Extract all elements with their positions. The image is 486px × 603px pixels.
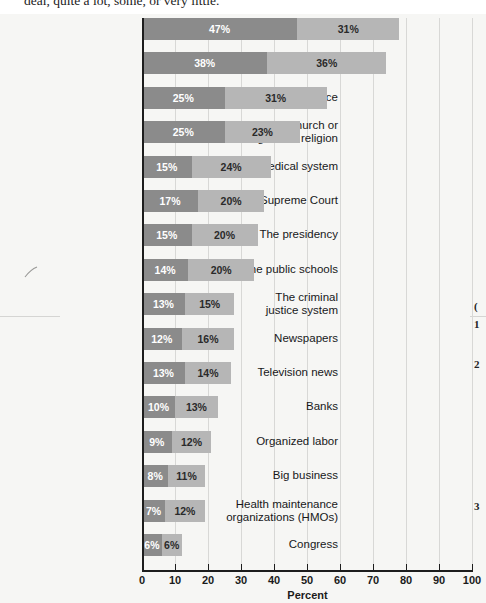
bar-segment-value: 13%	[175, 402, 218, 413]
x-axis-tick	[340, 564, 341, 571]
caption-fragment-clip: deal, quite a lot, some, or very little.	[0, 0, 486, 14]
bar-segment-quite-a-lot: 31%	[297, 18, 399, 40]
x-axis-tick	[274, 564, 275, 571]
bar-segment-quite-a-lot: 23%	[225, 121, 301, 143]
chart-bar-row: Newspapers12%16%	[0, 328, 486, 350]
bar-segment-quite-a-lot: 31%	[225, 87, 327, 109]
bar-segment-great-deal: 10%	[142, 396, 175, 418]
bar-segment-great-deal: 13%	[142, 362, 185, 384]
bar-segment-great-deal: 8%	[142, 465, 168, 487]
bar-segment-value: 6%	[162, 540, 182, 551]
y-axis-line	[142, 18, 144, 570]
x-axis-tick-label: 10	[160, 574, 190, 586]
x-axis-tick-label: 90	[424, 574, 454, 586]
bar-segment-great-deal: 38%	[142, 52, 267, 74]
bar-segment-value: 38%	[142, 58, 267, 69]
bar-segment-value: 13%	[142, 299, 185, 310]
bar-segment-value: 20%	[192, 230, 258, 241]
bar-segment-great-deal: 15%	[142, 224, 192, 246]
category-label-line: Health maintenance	[198, 498, 338, 511]
bar-segment-great-deal: 15%	[142, 156, 192, 178]
bar-segment-value: 11%	[168, 471, 204, 482]
bar-segment-value: 25%	[142, 92, 225, 103]
category-label: Congress	[198, 538, 338, 551]
bar-segment-quite-a-lot: 12%	[165, 500, 205, 522]
margin-rule-left	[0, 316, 60, 317]
chart-bar-row: The criminaljustice system13%15%	[0, 293, 486, 315]
category-label: Big business	[198, 469, 338, 482]
chart-bar-row: Congress6%6%	[0, 534, 486, 556]
bar-segment-great-deal: 17%	[142, 190, 198, 212]
bar-segment-value: 16%	[182, 333, 235, 344]
category-label: Organized labor	[198, 435, 338, 448]
bar-segment-value: 20%	[188, 264, 254, 275]
category-label-line: Organized labor	[198, 435, 338, 448]
bar-segment-value: 15%	[142, 161, 192, 172]
category-label-line: Banks	[198, 400, 338, 413]
chart-bar-row: Big business8%11%	[0, 465, 486, 487]
bar-segment-value: 7%	[142, 505, 165, 516]
category-label: Banks	[198, 400, 338, 413]
x-axis-tick	[241, 564, 242, 571]
bar-segment-value: 20%	[198, 196, 264, 207]
chart-bar-row: Health maintenanceorganizations (HMOs)7%…	[0, 500, 486, 522]
chart-bar-row: Banks10%13%	[0, 396, 486, 418]
bar-segment-value: 31%	[297, 24, 399, 35]
category-label-line: Congress	[198, 538, 338, 551]
bar-segment-quite-a-lot: 16%	[182, 328, 235, 350]
chart-bar-row: Small business38%36%	[0, 52, 486, 74]
x-axis-tick	[307, 564, 308, 571]
bar-segment-value: 24%	[192, 161, 271, 172]
x-axis-tick	[373, 564, 374, 571]
x-axis-tick-label: 40	[259, 574, 289, 586]
category-label: Health maintenanceorganizations (HMOs)	[198, 498, 338, 524]
bar-segment-great-deal: 7%	[142, 500, 165, 522]
bar-segment-quite-a-lot: 20%	[198, 190, 264, 212]
bar-segment-quite-a-lot: 24%	[192, 156, 271, 178]
bar-segment-great-deal: 25%	[142, 121, 225, 143]
chart-page: deal, quite a lot, some, or very little.…	[0, 0, 486, 603]
x-axis-tick	[208, 564, 209, 571]
x-axis-tick	[406, 564, 407, 571]
x-axis-tick-label: 20	[193, 574, 223, 586]
bar-segment-value: 15%	[185, 299, 235, 310]
bar-segment-value: 36%	[267, 58, 386, 69]
bar-segment-value: 12%	[142, 333, 182, 344]
x-axis-tick-label: 0	[127, 574, 157, 586]
x-axis-tick	[439, 564, 440, 571]
chart-bar-row: Organized labor9%12%	[0, 431, 486, 453]
chart-bar-row: The police25%31%	[0, 87, 486, 109]
bar-segment-great-deal: 47%	[142, 18, 297, 40]
bar-segment-quite-a-lot: 36%	[267, 52, 386, 74]
x-axis-tick-label: 50	[292, 574, 322, 586]
bar-segment-value: 14%	[185, 368, 231, 379]
chart-bar-row: The church ororganized religion25%23%	[0, 121, 486, 143]
bar-segment-value: 14%	[142, 264, 188, 275]
x-axis-tick-label: 30	[226, 574, 256, 586]
chart-bar-row: The presidency15%20%	[0, 224, 486, 246]
bar-segment-great-deal: 6%	[142, 534, 162, 556]
x-axis-tick	[175, 564, 176, 571]
bar-segment-quite-a-lot: 13%	[175, 396, 218, 418]
bar-segment-value: 12%	[172, 436, 212, 447]
chart-bar-row: The military47%31%	[0, 18, 486, 40]
bar-segment-value: 12%	[165, 505, 205, 516]
bar-segment-quite-a-lot: 11%	[168, 465, 204, 487]
chart-bar-row: The medical system15%24%	[0, 156, 486, 178]
x-axis-tick-label: 70	[358, 574, 388, 586]
x-axis-title: Percent	[142, 589, 473, 601]
caption-fragment-text: deal, quite a lot, some, or very little.	[24, 0, 219, 9]
x-axis-tick-label: 60	[325, 574, 355, 586]
bar-segment-value: 23%	[225, 127, 301, 138]
bar-segment-value: 13%	[142, 368, 185, 379]
bar-segment-quite-a-lot: 14%	[185, 362, 231, 384]
bar-segment-value: 47%	[142, 24, 297, 35]
category-label-line: Big business	[198, 469, 338, 482]
category-label-line: organizations (HMOs)	[198, 511, 338, 524]
bar-segment-value: 8%	[142, 471, 168, 482]
bar-segment-great-deal: 13%	[142, 293, 185, 315]
bar-segment-value: 17%	[142, 196, 198, 207]
bar-segment-quite-a-lot: 6%	[162, 534, 182, 556]
bar-segment-great-deal: 12%	[142, 328, 182, 350]
bar-segment-quite-a-lot: 15%	[185, 293, 235, 315]
